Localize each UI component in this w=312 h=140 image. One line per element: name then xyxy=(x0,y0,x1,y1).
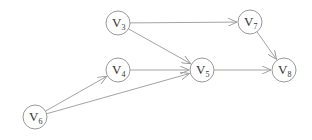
node-v7: V7 xyxy=(238,10,262,34)
node-v3: V3 xyxy=(106,11,130,35)
nodes: V3V4V5V6V7V8 xyxy=(23,10,296,129)
node-v8: V8 xyxy=(272,58,296,82)
edge-v3-v5 xyxy=(128,29,190,64)
graph-canvas: V3V4V5V6V7V8 xyxy=(0,0,312,140)
node-v5: V5 xyxy=(190,58,214,82)
edge-v7-v8 xyxy=(257,32,277,60)
edge-v3-v7 xyxy=(130,22,237,23)
node-v6: V6 xyxy=(23,105,47,129)
node-v4: V4 xyxy=(106,58,130,82)
edges xyxy=(45,22,276,114)
